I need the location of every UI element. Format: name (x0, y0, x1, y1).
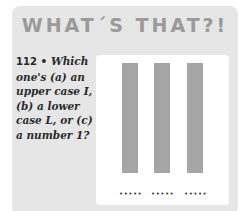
answer-blank-a: ••••• (119, 191, 141, 197)
answer-blank-c: ••••• (184, 191, 206, 197)
puzzle-title: WHAT´S THAT?! (12, 14, 238, 36)
glyph-bar-a (122, 63, 138, 173)
question-text: 112 • Which one's (a) an upper case I, (… (16, 54, 96, 142)
question-separator: • (41, 55, 48, 67)
figure-panel: ••••• ••••• ••••• (96, 55, 229, 205)
answer-blank-b: ••••• (151, 191, 173, 197)
glyph-bar-c (187, 63, 203, 173)
glyph-bar-b (154, 63, 170, 173)
question-number: 112 (16, 56, 37, 67)
question-body: Which one's (a) an upper case I, (b) a l… (16, 55, 93, 141)
